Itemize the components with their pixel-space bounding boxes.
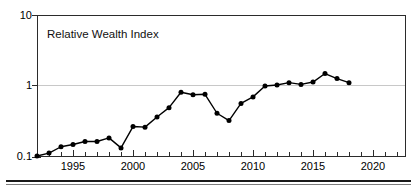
x-axis-tick-2007 [217,152,218,157]
y-axis-tick-label-1: 1 [2,80,32,91]
gridline-y-1 [38,85,405,86]
x-axis-tick-2003 [169,152,170,157]
x-axis-tick-2018 [349,152,350,157]
x-axis-tick-label-1995: 1995 [53,160,93,172]
x-axis-tick-2001 [145,152,146,157]
y-axis-tick-label-10: 10 [2,10,32,21]
x-axis-tick-2014 [301,152,302,157]
x-axis-tick-1998 [109,152,110,157]
x-axis-tick-label-2020: 2020 [353,160,393,172]
x-axis-tick-2017 [337,152,338,157]
x-axis-tick-2020 [373,150,374,157]
x-axis-tick-1994 [61,152,62,157]
chart-title: Relative Wealth Index [47,28,159,41]
y-axis-tick-mark-0.1 [32,157,41,158]
x-axis-tick-2013 [289,152,290,157]
x-axis-tick-label-2000: 2000 [113,160,153,172]
x-axis-tick-2009 [241,152,242,157]
x-axis-tick-2004 [181,152,182,157]
x-axis-tick-1997 [97,152,98,157]
x-axis-tick-1996 [85,152,86,157]
x-axis-tick-1993 [49,152,50,157]
x-axis-tick-1995 [73,150,74,157]
x-axis-tick-2011 [265,152,266,157]
x-axis-tick-label-2010: 2010 [233,160,273,172]
x-axis-tick-2010 [253,150,254,157]
x-axis-tick-2006 [205,152,206,157]
y-axis-tick-label-0.1: 0.1 [2,151,32,162]
x-axis-tick-label-2015: 2015 [293,160,333,172]
x-axis-tick-2016 [325,152,326,157]
x-axis-tick-2022 [397,152,398,157]
x-axis-tick-2008 [229,152,230,157]
x-axis-tick-1999 [121,152,122,157]
chart-figure: 10 1 0.1 Relative Wealth Index 1995 2000… [0,0,417,192]
x-axis-tick-2021 [385,152,386,157]
x-axis-tick-2000 [133,150,134,157]
footer-rule-thin [6,184,411,185]
x-axis-tick-label-2005: 2005 [173,160,213,172]
x-axis-tick-2019 [361,152,362,157]
x-axis-tick-2005 [193,150,194,157]
x-axis-tick-2002 [157,152,158,157]
x-axis-tick-2015 [313,150,314,157]
x-axis-tick-2012 [277,152,278,157]
footer-rule-thick [6,180,411,182]
